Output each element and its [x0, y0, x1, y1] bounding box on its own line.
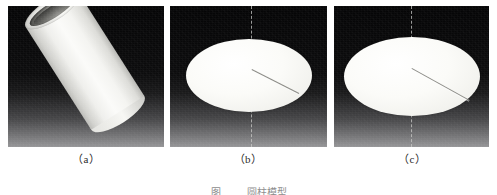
figure-panel-b [170, 6, 327, 147]
figure-root: （a） （b） （c） 图圆柱模型 [0, 0, 497, 195]
cylinder-body-group [26, 6, 145, 130]
figure-panel-a [8, 6, 164, 147]
cylinder-specimen [8, 6, 164, 147]
panel-label-c: （c） [352, 152, 472, 166]
figure-caption: 图圆柱模型 [0, 186, 497, 195]
elliptical-disc-b [186, 39, 312, 112]
figure-caption-number: 图 [211, 187, 221, 195]
figure-caption-text: 圆柱模型 [247, 187, 287, 195]
figure-panel-c [334, 6, 489, 147]
elliptical-disc-c [344, 37, 480, 116]
panel-label-a: （a） [26, 152, 146, 166]
panel-label-b: （b） [188, 152, 308, 166]
